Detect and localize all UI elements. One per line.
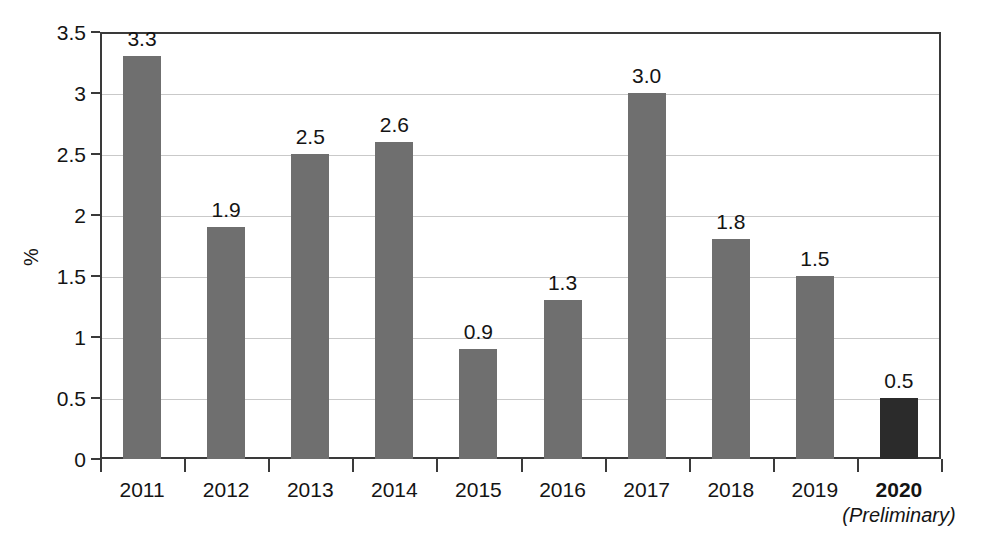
- bar: [123, 56, 161, 459]
- y-axis-tick-label: 2: [26, 205, 86, 226]
- bar: [459, 349, 497, 459]
- bar: [712, 239, 750, 459]
- bar-value-label: 1.8: [686, 211, 776, 232]
- bar: [796, 276, 834, 459]
- x-axis-tick-mark: [773, 459, 775, 472]
- bar-value-label: 3.0: [602, 65, 692, 86]
- bar: [544, 300, 582, 459]
- bar-value-label: 1.5: [770, 248, 860, 269]
- bar-value-label: 0.5: [854, 370, 944, 391]
- bar: [207, 227, 245, 459]
- bar: [880, 398, 918, 459]
- gridline: [102, 155, 939, 156]
- y-axis-tick-label: 1: [26, 327, 86, 348]
- gridline: [102, 94, 939, 95]
- y-axis-tick-label: 1.5: [26, 266, 86, 287]
- x-axis-tick-label: 2020: [849, 478, 949, 502]
- y-axis-tick-mark: [91, 458, 100, 460]
- bar: [375, 142, 413, 459]
- x-axis-tick-mark: [436, 459, 438, 472]
- y-axis-tick-label: 0.5: [26, 388, 86, 409]
- x-axis-tick-mark: [268, 459, 270, 472]
- bar-value-label: 1.3: [518, 272, 608, 293]
- x-axis-tick-mark: [521, 459, 523, 472]
- x-axis-tick-mark: [857, 459, 859, 472]
- y-axis-title: %: [21, 248, 41, 266]
- y-axis-tick-mark: [91, 397, 100, 399]
- y-axis-tick-mark: [91, 92, 100, 94]
- x-axis-tick-mark: [100, 459, 102, 472]
- y-axis-tick-label: 2.5: [26, 144, 86, 165]
- y-axis-tick-label: 3: [26, 83, 86, 104]
- x-axis-tick-mark: [689, 459, 691, 472]
- y-axis-tick-mark: [91, 336, 100, 338]
- y-axis-tick-label: 3.5: [26, 22, 86, 43]
- x-axis-tick-mark: [605, 459, 607, 472]
- y-axis-tick-label: 0: [26, 449, 86, 470]
- bar: [291, 154, 329, 459]
- bar-value-label: 2.6: [349, 114, 439, 135]
- bar-value-label: 3.3: [97, 28, 187, 49]
- bar-value-label: 1.9: [181, 199, 271, 220]
- bar-value-label: 0.9: [433, 321, 523, 342]
- x-axis-tick-mark: [352, 459, 354, 472]
- y-axis-tick-mark: [91, 275, 100, 277]
- bar-value-label: 2.5: [265, 126, 355, 147]
- x-axis-tick-mark: [941, 459, 943, 472]
- y-axis-tick-mark: [91, 214, 100, 216]
- bar-chart: 00.511.522.533.5 % 3.31.92.52.60.91.33.0…: [0, 0, 983, 553]
- bar: [628, 93, 666, 459]
- x-axis-tick-mark: [184, 459, 186, 472]
- x-axis-sub-label: (Preliminary): [824, 504, 974, 527]
- y-axis-tick-mark: [91, 153, 100, 155]
